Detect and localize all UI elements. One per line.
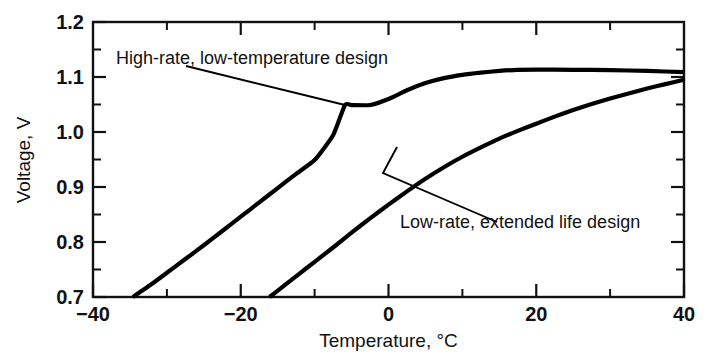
x-axis-title: Temperature, °C bbox=[319, 330, 458, 351]
x-axis-top-ticks bbox=[167, 22, 610, 35]
x-axis-major-ticks bbox=[93, 284, 684, 297]
x-tick-label-3: 20 bbox=[525, 303, 547, 325]
x-tick-label-4: 40 bbox=[673, 303, 695, 325]
annotation-high-rate: High-rate, low-temperature design bbox=[116, 48, 388, 68]
annotation-low-rate: Low-rate, extended life design bbox=[400, 212, 640, 232]
chart-canvas: 0.7 0.8 0.9 1.0 1.1 1.2 −40 −20 0 20 40 … bbox=[0, 0, 718, 361]
x-tick-label-0: −40 bbox=[76, 303, 110, 325]
y-tick-label-4: 1.1 bbox=[56, 66, 84, 88]
y-tick-label-3: 1.0 bbox=[56, 121, 84, 143]
y-axis-title: Voltage, V bbox=[13, 116, 34, 203]
leader-line-low-rate bbox=[383, 147, 497, 222]
chart-figure: 0.7 0.8 0.9 1.0 1.1 1.2 −40 −20 0 20 40 … bbox=[0, 0, 718, 361]
y-tick-label-5: 1.2 bbox=[56, 11, 84, 33]
x-tick-label-2: 0 bbox=[383, 303, 394, 325]
series-line-low-rate bbox=[270, 80, 684, 297]
y-tick-label-2: 0.9 bbox=[56, 176, 84, 198]
leader-line-high-rate bbox=[186, 66, 345, 105]
y-tick-label-1: 0.8 bbox=[56, 231, 84, 253]
x-tick-label-1: −20 bbox=[224, 303, 258, 325]
